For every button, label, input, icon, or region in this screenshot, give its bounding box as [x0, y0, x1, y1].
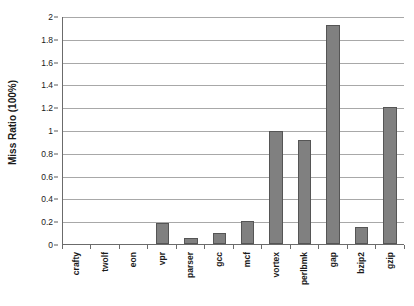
bar-bzip2[interactable]	[355, 227, 368, 244]
x-axis-category-label: parser	[185, 252, 195, 278]
bar-slot	[347, 17, 375, 244]
x-axis-category-label: perlbmk	[299, 252, 309, 285]
x-tick-slot	[262, 245, 291, 249]
x-axis-tick-mark	[375, 245, 376, 249]
y-axis-tick-label: 0.6	[41, 172, 53, 182]
x-label-slot: gzip	[376, 250, 405, 302]
x-label-slot: mcf	[233, 250, 262, 302]
y-axis-tick-mark	[54, 199, 58, 200]
x-label-slot: parser	[176, 250, 205, 302]
x-tick-slot	[119, 245, 148, 249]
bar-slot	[234, 17, 262, 244]
bar-slot	[177, 17, 205, 244]
y-axis-tick-label: 0.2	[41, 217, 53, 227]
bar-slot	[205, 17, 233, 244]
x-label-slot: vpr	[148, 250, 177, 302]
bar-slot	[319, 17, 347, 244]
x-axis-category-label: vpr	[157, 252, 167, 265]
x-tick-slot	[148, 245, 177, 249]
y-axis-tick-mark	[54, 245, 58, 246]
bar-slot	[63, 17, 91, 244]
bar-parser[interactable]	[184, 238, 197, 244]
y-axis-tick-label: 0.8	[41, 149, 53, 159]
y-axis-tick-label: 0.4	[41, 194, 53, 204]
x-axis-category-label: twolf	[100, 252, 110, 272]
x-axis-category-label: crafty	[71, 252, 81, 275]
bar-slot	[91, 17, 119, 244]
x-tick-slot	[319, 245, 348, 249]
x-axis-category-label: eon	[128, 252, 138, 267]
x-axis-category-label: mcf	[242, 252, 252, 267]
x-axis-category-labels: craftytwolfeonvprparsergccmcfvortexperlb…	[62, 250, 404, 302]
bar-mcf[interactable]	[241, 221, 254, 244]
y-axis-title-text: Miss Ratio (100%)	[8, 80, 19, 165]
x-label-slot: crafty	[62, 250, 91, 302]
bar-gcc[interactable]	[213, 233, 226, 244]
x-tick-slot	[62, 245, 91, 249]
y-axis-tick-label: 2	[48, 12, 53, 22]
x-axis-tick-mark	[404, 245, 405, 249]
bar-slot	[262, 17, 290, 244]
y-axis-tick-mark	[54, 108, 58, 109]
x-label-slot: perlbmk	[290, 250, 319, 302]
y-axis-tick-labels: 00.20.40.60.811.21.41.61.82	[26, 17, 58, 245]
x-label-slot: gap	[319, 250, 348, 302]
x-label-slot: eon	[119, 250, 148, 302]
x-tick-slot	[176, 245, 205, 249]
bar-perlbmk[interactable]	[298, 140, 311, 244]
x-axis-tick-mark	[347, 245, 348, 249]
y-axis-tick-label: 1.4	[41, 80, 53, 90]
x-tick-slot	[376, 245, 405, 249]
x-axis-tick-mark	[147, 245, 148, 249]
y-axis-tick-mark	[54, 39, 58, 40]
x-label-slot: twolf	[91, 250, 120, 302]
y-axis-tick-mark	[54, 85, 58, 86]
bar-slot	[376, 17, 404, 244]
bar-chart: Miss Ratio (100%) 00.20.40.60.811.21.41.…	[0, 0, 414, 306]
x-tick-slot	[233, 245, 262, 249]
x-tick-slot	[205, 245, 234, 249]
y-axis-tick-label: 1.2	[41, 103, 53, 113]
x-tick-slot	[347, 245, 376, 249]
bar-gap[interactable]	[326, 25, 339, 244]
x-axis-tick-mark	[119, 245, 120, 249]
x-axis-category-label: vortex	[271, 252, 281, 278]
x-axis-category-label: gap	[328, 252, 338, 267]
bar-slot	[290, 17, 318, 244]
bars-layer	[63, 17, 404, 244]
x-axis-tick-mark	[318, 245, 319, 249]
x-axis-tick-mark	[233, 245, 234, 249]
x-label-slot: bzip2	[347, 250, 376, 302]
y-axis-tick-mark	[54, 17, 58, 18]
bar-vortex[interactable]	[269, 131, 282, 244]
x-axis-tick-mark	[176, 245, 177, 249]
y-axis-tick-mark	[54, 131, 58, 132]
x-axis-ticks	[62, 245, 404, 249]
x-axis-category-label: bzip2	[356, 252, 366, 274]
y-axis-tick-mark	[54, 222, 58, 223]
y-axis-title: Miss Ratio (100%)	[0, 0, 26, 245]
x-tick-slot	[91, 245, 120, 249]
x-axis-tick-mark	[290, 245, 291, 249]
y-axis-tick-mark	[54, 153, 58, 154]
x-axis-category-label: gcc	[214, 252, 224, 267]
y-axis-tick-mark	[54, 176, 58, 177]
y-axis-tick-label: 1.8	[41, 35, 53, 45]
plot-area	[62, 17, 404, 245]
x-axis-tick-mark	[261, 245, 262, 249]
y-axis-tick-label: 1	[48, 126, 53, 136]
y-axis-tick-label: 1.6	[41, 58, 53, 68]
bar-slot	[148, 17, 176, 244]
y-axis-tick-label: 0	[48, 240, 53, 250]
x-label-slot: vortex	[262, 250, 291, 302]
y-axis-tick-mark	[54, 62, 58, 63]
x-axis-category-label: gzip	[385, 252, 395, 269]
bar-vpr[interactable]	[156, 223, 169, 244]
bar-gzip[interactable]	[383, 107, 396, 244]
x-axis-tick-mark	[90, 245, 91, 249]
x-tick-slot	[290, 245, 319, 249]
x-axis-tick-mark	[204, 245, 205, 249]
x-label-slot: gcc	[205, 250, 234, 302]
bar-slot	[120, 17, 148, 244]
x-axis-tick-mark	[62, 245, 63, 249]
